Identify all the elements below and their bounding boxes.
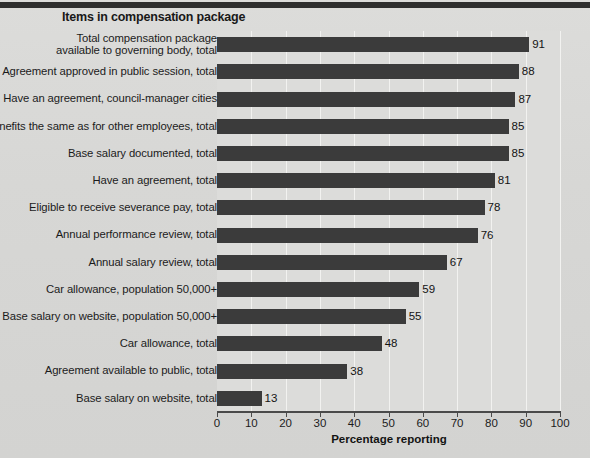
bar-value-label: 55: [409, 309, 422, 324]
category-label: Base salary documented, total: [0, 147, 217, 160]
gridline: [457, 31, 458, 412]
category-label: Base salary on website, total: [0, 392, 217, 405]
category-label: Benefits the same as for other employees…: [0, 120, 217, 133]
bar-value-label: 67: [450, 255, 463, 270]
x-axis-tick-label: 0: [214, 417, 220, 429]
bar: [217, 255, 447, 270]
bar-value-label: 87: [518, 92, 531, 107]
chart-title: Items in compensation package: [62, 10, 245, 24]
bar-value-label: 38: [350, 364, 363, 379]
bar: [217, 119, 509, 134]
category-label: Have an agreement, council-manager citie…: [0, 92, 217, 105]
bar: [217, 391, 262, 406]
x-axis-tick-label: 10: [245, 417, 258, 429]
x-axis-tick-label: 90: [519, 417, 532, 429]
category-label: Car allowance, total: [0, 337, 217, 350]
bar-value-label: 85: [512, 119, 525, 134]
gridline: [560, 31, 561, 412]
category-label: Annual performance review, total: [0, 228, 217, 241]
x-axis-tick-label: 30: [313, 417, 326, 429]
bar-value-label: 13: [265, 391, 278, 406]
bar: [217, 92, 515, 107]
x-axis-tick-label: 40: [348, 417, 361, 429]
category-label: Have an agreement, total: [0, 174, 217, 187]
bar: [217, 309, 406, 324]
gridline: [526, 31, 527, 412]
category-label: Annual salary review, total: [0, 256, 217, 269]
bar: [217, 282, 419, 297]
bar-value-label: 88: [522, 64, 535, 79]
bar-value-label: 81: [498, 173, 511, 188]
figure-panel: Items in compensation package Percentage…: [0, 0, 590, 458]
x-axis-tick-label: 20: [279, 417, 292, 429]
bar: [217, 146, 509, 161]
gridline: [286, 31, 287, 412]
bar-value-label: 78: [488, 200, 501, 215]
gridline: [389, 31, 390, 412]
bar-value-label: 59: [422, 282, 435, 297]
bar: [217, 364, 347, 379]
plot-area: [217, 31, 560, 412]
category-label: Base salary on website, population 50,00…: [0, 310, 217, 323]
category-label: Car allowance, population 50,000+: [0, 283, 217, 296]
x-axis-tick-label: 100: [550, 417, 569, 429]
category-label: Eligible to receive severance pay, total: [0, 201, 217, 214]
gridline: [320, 31, 321, 412]
bar: [217, 200, 485, 215]
x-axis-tick-label: 70: [451, 417, 464, 429]
x-axis-tick-label: 60: [416, 417, 429, 429]
gridline: [423, 31, 424, 412]
bar-value-label: 91: [532, 37, 545, 52]
gridline: [354, 31, 355, 412]
x-axis-title: Percentage reporting: [217, 433, 561, 445]
bar: [217, 37, 529, 52]
gridline: [251, 31, 252, 412]
bar-value-label: 48: [385, 336, 398, 351]
bar: [217, 228, 478, 243]
bar-value-label: 85: [512, 146, 525, 161]
x-axis-tick-label: 80: [485, 417, 498, 429]
top-rule-divider: [0, 2, 590, 8]
category-label: Agreement approved in public session, to…: [0, 65, 217, 78]
bar: [217, 173, 495, 188]
bar-value-label: 76: [481, 228, 494, 243]
gridline: [491, 31, 492, 412]
category-label: Total compensation package available to …: [0, 32, 217, 57]
bar: [217, 336, 382, 351]
x-axis-tick-label: 50: [382, 417, 395, 429]
bar: [217, 64, 519, 79]
category-label: Agreement available to public, total: [0, 364, 217, 377]
